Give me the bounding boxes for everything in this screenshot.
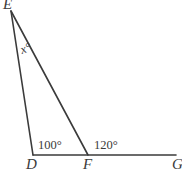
angle-label-100: 100° bbox=[38, 138, 62, 152]
vertex-label-D: D bbox=[25, 156, 37, 172]
angle-label-120: 120° bbox=[94, 138, 118, 152]
vertex-label-E: E bbox=[2, 0, 12, 12]
vertex-label-F: F bbox=[82, 156, 93, 172]
geometry-diagram-canvas: E D F G x° 100° 120° bbox=[0, 0, 182, 172]
vertex-label-G: G bbox=[172, 156, 182, 172]
geometry-figure: E D F G x° 100° 120° bbox=[0, 0, 182, 172]
angle-label-x: x° bbox=[17, 40, 33, 57]
